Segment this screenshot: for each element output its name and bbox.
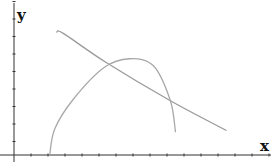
x-axis-label: x <box>260 137 270 155</box>
decreasing-line <box>57 31 227 131</box>
chart: y x <box>0 0 271 162</box>
series-layer <box>50 31 227 155</box>
y-axis-label: y <box>16 6 27 24</box>
y-axis <box>13 2 16 163</box>
x-axis <box>0 154 271 157</box>
arc-curve <box>50 59 176 155</box>
